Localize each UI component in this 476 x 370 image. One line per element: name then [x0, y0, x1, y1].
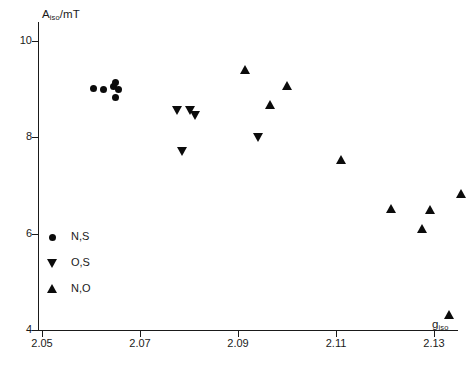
legend-item-no: N,O: [52, 276, 142, 302]
data-point-triangle-down: [253, 133, 263, 142]
y-axis-title: Aiso/mT: [42, 8, 80, 22]
legend: N,SO,SN,O: [52, 224, 142, 302]
x-axis-line: [38, 330, 458, 331]
x-tick-label: 2.13: [410, 337, 458, 349]
y-tick-label: 6: [0, 228, 32, 239]
data-point-triangle-up: [240, 65, 250, 74]
x-tick-label: 2.09: [214, 337, 262, 349]
data-point-triangle-up: [456, 189, 466, 198]
x-tick-label: 2.05: [18, 337, 66, 349]
x-axis-title: giso: [432, 318, 449, 332]
data-point-triangle-down: [177, 147, 187, 156]
y-axis-title-base: A: [42, 8, 50, 20]
y-tick-label: 10: [0, 35, 32, 46]
x-axis-title-subscript: iso: [438, 323, 448, 332]
legend-item-ns: N,S: [52, 224, 142, 250]
y-tick-mark: [32, 330, 38, 331]
x-tick-label: 2.07: [116, 337, 164, 349]
y-tick-mark: [32, 137, 38, 138]
data-point-triangle-up: [425, 205, 435, 214]
y-tick-mark: [32, 41, 38, 42]
legend-item-os: O,S: [52, 250, 142, 276]
y-tick-label: 4: [0, 324, 32, 335]
y-tick-label-text: 8: [6, 131, 32, 142]
y-tick-label: 8: [0, 131, 32, 142]
y-tick-label-text: 10: [6, 35, 32, 46]
data-point-triangle-up: [265, 100, 275, 109]
legend-label: N,O: [71, 282, 91, 295]
y-axis-title-unit: /mT: [60, 8, 80, 20]
y-axis-line: [38, 22, 39, 331]
y-tick-mark: [32, 234, 38, 235]
x-tick-label: 2.11: [312, 337, 360, 349]
scatter-plot-figure: Aiso/mT giso 10864 2.052.072.092.112.13 …: [0, 0, 476, 370]
circle-marker: [49, 234, 56, 241]
data-point-triangle-up: [336, 155, 346, 164]
data-point-circle: [115, 86, 122, 93]
y-axis-title-subscript: iso: [50, 13, 60, 22]
data-point-triangle-down: [172, 106, 182, 115]
legend-label: N,S: [71, 230, 89, 243]
data-point-triangle-down: [190, 111, 200, 120]
y-tick-label-text: 4: [6, 324, 32, 335]
triangle-up-marker: [47, 284, 57, 293]
triangle-down-marker: [47, 259, 57, 268]
data-point-triangle-up: [444, 310, 454, 319]
legend-label: O,S: [71, 256, 90, 269]
data-point-circle: [100, 86, 107, 93]
data-point-triangle-up: [386, 204, 396, 213]
data-point-triangle-up: [417, 224, 427, 233]
y-tick-label-text: 6: [6, 228, 32, 239]
data-point-circle: [90, 85, 97, 92]
data-point-triangle-up: [282, 81, 292, 90]
data-point-circle: [112, 94, 119, 101]
